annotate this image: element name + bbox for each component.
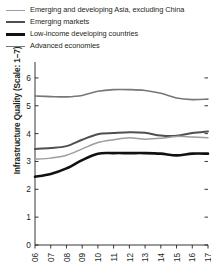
legend-label: Low-income developing countries bbox=[30, 30, 138, 38]
x-tick-label: 08 bbox=[63, 253, 72, 263]
line-chart: 0123456060708091011121314151617 bbox=[17, 58, 211, 272]
legend-label: Emerging and developing Asia, excluding … bbox=[30, 6, 184, 14]
x-tick-label: 10 bbox=[94, 253, 103, 263]
chart-legend: Emerging and developing Asia, excluding … bbox=[6, 4, 211, 52]
legend-item-asia-ex-china: Emerging and developing Asia, excluding … bbox=[6, 4, 211, 16]
legend-item-emerging-markets: Emerging markets bbox=[6, 16, 211, 28]
legend-line-swatch-icon bbox=[6, 10, 25, 11]
x-tick-label: 16 bbox=[188, 253, 197, 263]
x-tick-label: 06 bbox=[31, 253, 40, 263]
chart-figure: Emerging and developing Asia, excluding … bbox=[0, 0, 211, 272]
plot-area: 0123456060708091011121314151617 bbox=[17, 58, 211, 272]
y-tick-label: 1 bbox=[26, 212, 31, 222]
y-tick-label: 6 bbox=[26, 73, 31, 83]
x-tick-label: 09 bbox=[78, 253, 87, 263]
legend-line-swatch-icon bbox=[6, 21, 25, 23]
legend-item-lidc: Low-income developing countries bbox=[6, 28, 211, 40]
series-line bbox=[35, 89, 208, 99]
legend-item-advanced-economies: Advanced economies bbox=[6, 40, 211, 52]
legend-label: Advanced economies bbox=[30, 42, 100, 50]
series-line bbox=[35, 131, 208, 149]
y-tick-label: 4 bbox=[26, 129, 31, 139]
x-tick-label: 14 bbox=[157, 253, 166, 263]
y-tick-label: 5 bbox=[26, 101, 31, 111]
legend-label: Emerging markets bbox=[30, 18, 89, 26]
y-tick-label: 0 bbox=[26, 240, 31, 250]
x-tick-label: 11 bbox=[110, 253, 119, 262]
y-tick-label: 3 bbox=[26, 156, 31, 166]
x-tick-label: 13 bbox=[141, 253, 150, 263]
x-tick-label: 17 bbox=[204, 253, 211, 263]
y-tick-label: 2 bbox=[26, 184, 31, 194]
x-tick-label: 15 bbox=[173, 253, 182, 263]
x-tick-label: 07 bbox=[47, 253, 56, 263]
x-tick-label: 12 bbox=[126, 253, 135, 263]
